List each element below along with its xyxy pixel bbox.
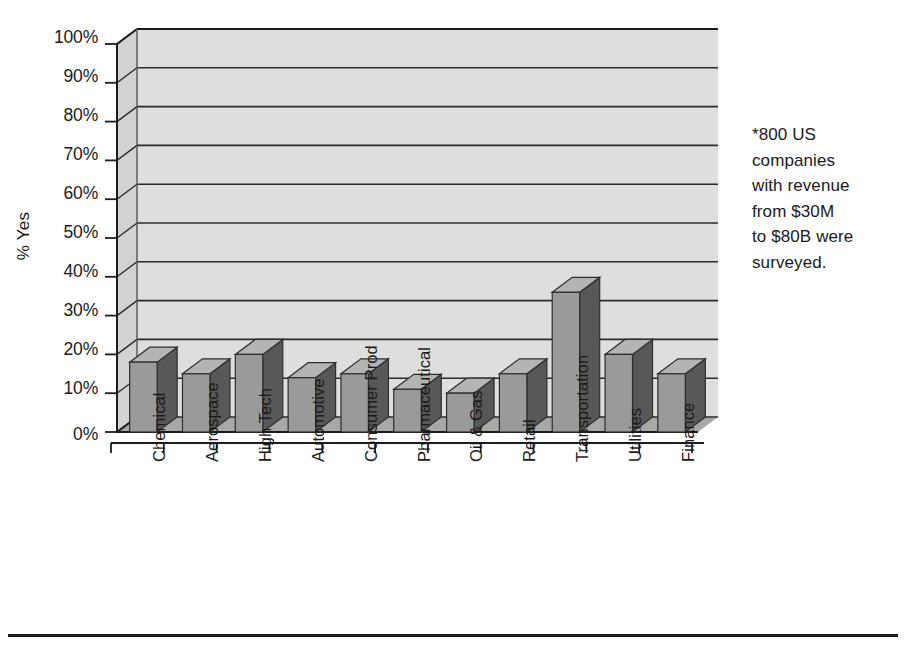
x-axis-label-retail: Retail (520, 419, 539, 462)
survey-note-line-3: with revenue (752, 173, 894, 199)
x-axis-label-finance: Finance (679, 403, 698, 462)
survey-note-line-4: from $30M (752, 199, 894, 225)
plot-area (0, 0, 906, 647)
survey-note: *800 US companies with revenue from $30M… (752, 122, 894, 275)
chart-figure: % Yes 100% 90% 80% 70% 60% 50% 40% 30% 2… (0, 0, 906, 647)
survey-note-line-5: to $80B were (752, 224, 894, 250)
survey-note-line-2: companies (752, 148, 894, 174)
x-axis-label-consumer-prod: Consumer Prod (362, 345, 381, 462)
x-axis-label-high-tech: High Tech (256, 388, 275, 462)
survey-note-line-1: *800 US (752, 122, 894, 148)
x-axis-label-automotive: Automotive (309, 378, 328, 462)
x-axis-label-pharmaceutical: Pharmaceutical (415, 347, 434, 462)
x-axis-label-aerospace: Aerospace (203, 382, 222, 462)
footer-divider (8, 634, 898, 637)
survey-note-line-6: surveyed. (752, 250, 894, 276)
x-axis-label-chemical: Chemical (150, 392, 169, 462)
x-tick-marks (111, 443, 692, 453)
x-axis-label-utilities: Utilities (626, 408, 645, 462)
y-tick-marks (105, 44, 117, 432)
x-axis-label-oil-gas: Oil & Gas (467, 390, 486, 462)
x-axis-label-transportation: Transportation (573, 355, 592, 462)
